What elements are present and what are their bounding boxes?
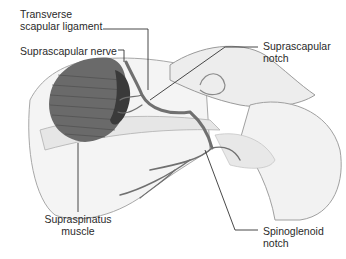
label-line: Transverse — [20, 8, 102, 20]
label-line: Supraspinatus — [40, 213, 116, 225]
anatomy-diagram: Transverse scapular ligament Suprascapul… — [0, 0, 346, 259]
label-line: Suprascapular — [263, 40, 331, 52]
suprascapular-nerve-label: Suprascapular nerve — [20, 45, 117, 57]
label-line: muscle — [40, 225, 116, 237]
spinoglenoid-notch-label: Spinoglenoid notch — [263, 225, 324, 249]
label-line: Spinoglenoid — [263, 225, 324, 237]
suprascapular-notch-label: Suprascapular notch — [263, 40, 331, 64]
label-line: notch — [263, 237, 324, 249]
label-line: scapular ligament — [20, 20, 102, 32]
transverse-scapular-ligament-label: Transverse scapular ligament — [20, 8, 102, 32]
supraspinatus-muscle-label: Supraspinatus muscle — [40, 213, 116, 237]
label-line: notch — [263, 52, 331, 64]
